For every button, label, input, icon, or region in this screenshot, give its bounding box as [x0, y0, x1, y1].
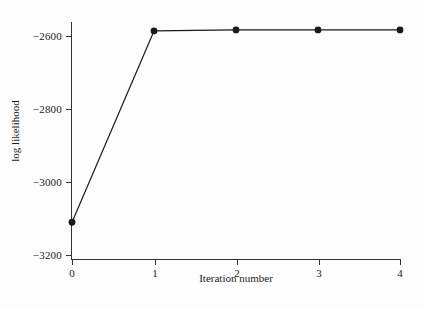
- data-point: [151, 28, 158, 35]
- series-markers: [69, 27, 404, 226]
- chart-figure: −2600 −2800 −3000 −3200 0 1 2 3 4 Iterat…: [0, 0, 425, 309]
- data-series: [0, 0, 425, 309]
- data-point: [69, 219, 76, 226]
- series-line: [72, 30, 400, 222]
- data-point: [397, 27, 404, 34]
- data-point: [315, 27, 322, 34]
- data-point: [233, 27, 240, 34]
